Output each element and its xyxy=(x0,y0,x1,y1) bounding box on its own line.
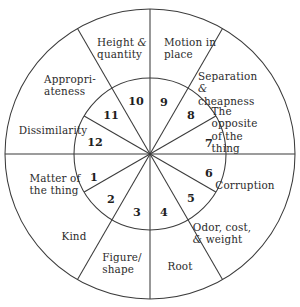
inner-sector-number-8: 8 xyxy=(187,110,195,121)
outer-sector-label-outer-4: The oppositeof the thing xyxy=(212,105,271,154)
outer-sector-label-outer-12: Appropri-ateness xyxy=(44,73,96,98)
ampersand-glyph: & xyxy=(138,36,147,48)
outer-sector-label-outer-6: Odor, cost,& weight xyxy=(193,221,251,246)
inner-sector-number-9: 9 xyxy=(160,97,168,108)
outer-sector-label-outer-3: Separation &cheapness xyxy=(198,70,266,107)
outer-sector-label-outer-8: Figure/shape xyxy=(102,251,142,276)
inner-sector-number-10: 10 xyxy=(128,96,144,107)
inner-sector-number-6: 6 xyxy=(205,168,213,179)
outer-sector-label-outer-5: Corruption xyxy=(215,179,274,191)
outer-sector-label-outer-11: Dissimilarity xyxy=(19,124,88,136)
outer-sector-label-outer-1: Height &quantity xyxy=(97,36,147,61)
inner-sector-number-11: 11 xyxy=(103,110,119,121)
inner-sector-number-1: 1 xyxy=(90,172,98,183)
inner-sector-number-4: 4 xyxy=(160,207,168,218)
outer-sector-label-outer-10: Matter ofthe thing xyxy=(29,172,80,197)
inner-sector-number-3: 3 xyxy=(133,207,141,218)
inner-sector-number-5: 5 xyxy=(187,193,195,204)
ampersand-glyph: & xyxy=(198,82,207,94)
inner-sector-number-7: 7 xyxy=(205,138,213,149)
label-layer: Height &quantityMotion inplaceSeparation… xyxy=(0,0,300,307)
ampersand-glyph: & xyxy=(193,233,202,245)
outer-sector-label-outer-7: Root xyxy=(167,260,192,272)
inner-sector-number-12: 12 xyxy=(87,137,103,148)
wheel-diagram: Height &quantityMotion inplaceSeparation… xyxy=(0,0,300,307)
outer-sector-label-outer-2: Motion inplace xyxy=(164,36,216,61)
inner-sector-number-2: 2 xyxy=(107,194,115,205)
outer-sector-label-outer-9: Kind xyxy=(61,230,86,242)
